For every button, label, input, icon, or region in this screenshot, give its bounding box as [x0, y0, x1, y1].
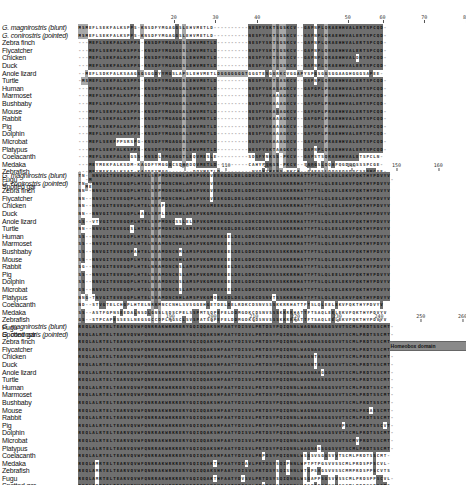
position-tick: 140: [347, 162, 356, 168]
sequence-row: --MEFLSDKFALKSAAGSGSGGDYYMGSLAPSLEHVMETL…: [78, 70, 394, 78]
sequence-row: GS--NNVGITEVEGQPLHTELNRAMDNCNSLAMSPVKGME…: [78, 286, 390, 294]
sequence-row: ---MEFLSEKFFPSRSPG-KNSDFYMGAGGALEHVMETLD…: [78, 138, 394, 146]
sequence-row: ---MEFLSEKFALKSPPS-KNSDFYMGAGGTLEHVMETLD…: [78, 146, 394, 154]
position-tick: 70: [421, 14, 427, 20]
position-tick: 190: [166, 313, 175, 319]
position-tick: 210: [249, 313, 258, 319]
sequence-row: ---MEFLSEKFALKSPPS-KNSDFYMGAGGSLEHVMETLD…: [78, 54, 394, 62]
sequence-row: REQLALRTELTEARVQVWFQNRRAKWRKRERYGQIQQAKS…: [78, 445, 394, 453]
sequence-row: ---MEFLSEKFALKSGSS-KNSDLYMGAGGTLEQVMESLE…: [78, 153, 394, 161]
sequence-row: ---MEFLSEKFALKSPPS-KNSDFYMGAGGALEHVMETLD…: [78, 123, 394, 131]
sequence-row: REQLALRTELTEARVQVWFQNRRAKWRKRERYGQIQQAKS…: [78, 353, 394, 361]
sequence-row: REQLALRTELTEARVQVWFQNRRAKWRKRERYGQIQQAKS…: [78, 399, 394, 407]
position-tick: 110: [221, 162, 230, 168]
sequence-row: REQLALRTELTEARVQVWFQNRRAKWRKRERYGQIQQAKS…: [78, 376, 394, 384]
sequence-row: REQLALRTELTEARVQVWFQNRRAKWRKRERYGQIQQAKS…: [78, 338, 394, 346]
sequence-row: SS--NNVGITEVEGQPLHTELNRAMDNCNHLAMSPVKGME…: [78, 240, 390, 248]
sequence-row: SS--NNVGITEVEGQPLHTELNRAMDNCNSLAMSPVKGME…: [78, 278, 390, 286]
position-tick: 50: [345, 14, 351, 20]
sequence-row: SS--NNVGITEVEGQPLHTELNRAMDNCNHLAMSPVKGME…: [78, 233, 390, 241]
sequence-row: ---MEFLSEKFALKSPPS-KNSDFYMGAGGALEHVMETLD…: [78, 92, 394, 100]
sequence-row: NN--NNVGITEVEGQPLHTELNRAFDNCNHLAMSPVKGME…: [78, 202, 390, 210]
position-ruler: 190200210220230240250260: [78, 313, 458, 323]
sequence-row: MSMEFLSEKFALKSPPS-KNSDFYMGAGGSLEHVMETLD-…: [78, 24, 394, 32]
sequence-row: ND--STVGTELCHGPLHTELNRRMNCCNHLSVSGGEHGET…: [78, 301, 390, 309]
sequence-row: NN--NNVGITEVEGQSLHTELSRPMDNCNHLAMSPVKGME…: [78, 225, 390, 233]
sequence-row: TN--NNVGITEVEGQPLHTELSRPMDNCNHLAMSPVKGVE…: [78, 180, 390, 188]
sequence-row: NN--NNVGITEVEGQPLHTELSRPMDNCNHLAMSPVKGVE…: [78, 187, 390, 195]
sequence-row: REQLAMRTELTEARVQVWFQNRRAKWRKRERYGQIQQAKT…: [78, 460, 394, 468]
position-tick: 40: [254, 14, 260, 20]
sequence-row: ---MEFLSEKFALKSPPS-KNSDFYMGAGGALEHVMETLD…: [78, 85, 394, 93]
position-tick: 100: [180, 162, 189, 168]
sequence-row: ---MEFLSEKFALKSPPS-KNSDFYMGAGGSLEHVMETLD…: [78, 39, 394, 47]
position-tick: 150: [392, 162, 401, 168]
sequence-row: REQLAMRTELTEARVQVWFQNRRAKWRKRERYGQIQQAKT…: [78, 475, 394, 483]
sequence-row: REQLAMRTELTEARVQVWFQNRRAKWRKRERYGQIQQAKS…: [78, 467, 394, 475]
position-tick: 20: [171, 14, 177, 20]
sequence-row: REQLALRTELTEARVQVWFQNRRAKWRKRERYGQIQQAKS…: [78, 429, 394, 437]
sequence-row: ---MEFLSEKFALKSPPS-KNSDFYMGAGGALEHVMETLD…: [78, 108, 394, 116]
sequence-row: TN--NNVGITEVEGQPLHTELSRPMDNCNHLAMSPVKGVE…: [78, 172, 390, 180]
sequence-row: REQLALRTELTEARVQVWFQNRRAKWRKRERYGQIQQAKS…: [78, 323, 394, 331]
sequence-row: ---MEFLSEKFALKSPPS-KNSDFYMGAGGSLEHVMETLD…: [78, 47, 394, 55]
sequence-row: ---MEFLSEKFALKSPPS-KNSDFYMGAGGSLEHVMETLD…: [78, 62, 394, 70]
sequence-row: NN--NNVGITEVEGQPLHTELSRPMDNCNHLAMSPVKGVE…: [78, 195, 390, 203]
sequence-row: SS--NNVGITEVEGQPLHTELNRAMDNCNSLAMSPVKGME…: [78, 271, 390, 279]
sequence-row: REQLALRTELTEARVQVWFQNRRAKWRKRERYGQIQQAKS…: [78, 369, 394, 377]
sequence-row: ---MEFLSEKFALKSPPS-KNSDFYMGAGGALEHVMETLD…: [78, 100, 394, 108]
position-tick: 30: [212, 14, 218, 20]
sequence-row: REQLALRTELTEARVQVWFQNRRAKWRKRERYGQIQQAKS…: [78, 422, 394, 430]
sequence-row: MSMEFLSEKFALKSPPS-KNSDFYMGAGGSLEHVMETLD-…: [78, 32, 394, 40]
sequence-row: REQLALRTELTEARVQVWFQNRRAKWRKRERYGQIQQAKS…: [78, 391, 394, 399]
sequence-row: REQLALRTELTEARVQVWFQNRRAKWRKRERYGQIQQAKS…: [78, 452, 394, 460]
sequence-row: REQLALRTELTEARVQVWFQNRRAKWRKRERYGQIQQAKS…: [78, 384, 394, 392]
sequence-row: REQLALRTELTEARVQVWFQNRRAKWRKRERYGQIQQAKS…: [78, 437, 394, 445]
sequence-row: REQLALRTELTEARVQVWFQNRRAKWRKRERYGQIQQAKS…: [78, 346, 394, 354]
position-tick: 160: [434, 162, 443, 168]
sequence-rows: REQLALRTELTEARVQVWFQNRRAKWRKRERYGQIQQAKS…: [78, 323, 394, 485]
sequence-row: NNG-TNVGITEVEGQPLHTELSRAMDNCNHLAMSPVKGMQ…: [78, 294, 390, 302]
position-tick: 120: [263, 162, 272, 168]
position-ruler: 20304050607080: [78, 14, 458, 24]
position-tick: 240: [375, 313, 384, 319]
sequence-row: ---MEFLSEKFALKSPPS-KNSDFYMGAGGALEHVMETLD…: [78, 130, 394, 138]
position-tick: 250: [416, 313, 425, 319]
sequence-row: REQLALRTELTEARVQVWFQNRRAKWRKRERYGQIQQAKS…: [78, 331, 394, 339]
position-tick: 60: [379, 14, 385, 20]
sequence-row: REQLALRTELTEARVQVWFQNRRAKWRKRERYGQIQQAKS…: [78, 414, 394, 422]
sequence-row: REQLALRTELTEARVQVWFQNRRAKWRKRERYGQIQQAKS…: [78, 407, 394, 415]
sequence-row: SS--NNVGITEVEGQPLHTELNRAMDNCNHLAMSPVKGME…: [78, 256, 390, 264]
sequence-row: NN--NNVGITEVEGQPLHAELSRPLDNCNHLAMSPVKGME…: [78, 210, 390, 218]
sequence-row: ---MEFLSEKFALKSPPS-KNSDFYMGAGGALEHVMETLD…: [78, 115, 394, 123]
sequence-row: REQLALRTELTEARVQVWFQNRRAKWRKRERYGQIQQAKS…: [78, 361, 394, 369]
sequence-row: SS--NNVGITEVEGQPAHTELNRAMDNCNMLAMSPVKGME…: [78, 248, 390, 256]
position-ruler: 100110120130140150160170: [78, 162, 458, 172]
sequence-row: SG--NNVGITEVEGQPLHTELNRAMDNCNSLAMSPVKGME…: [78, 263, 390, 271]
position-tick: 230: [333, 313, 342, 319]
position-tick: 200: [207, 313, 216, 319]
sequence-row: -MSMEFLSEKFALKSPPS-KNSDFYMGAGGSLEHVMETLD…: [78, 77, 394, 85]
position-tick: 220: [291, 313, 300, 319]
position-tick: 130: [305, 162, 314, 168]
position-tick: 260: [458, 313, 466, 319]
sequence-row: GS--VTVGITEVEGQPLHTELSRPMDNCSSLELSPVKGME…: [78, 218, 390, 226]
